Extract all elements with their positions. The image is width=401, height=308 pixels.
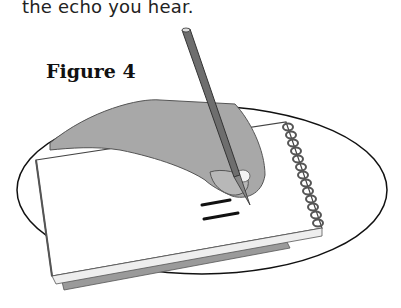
figure-illustration [0, 0, 401, 308]
